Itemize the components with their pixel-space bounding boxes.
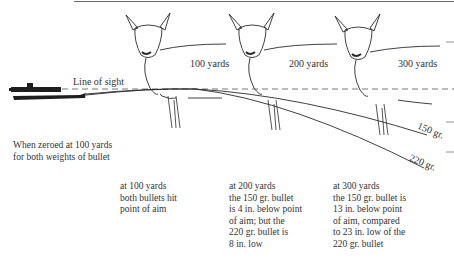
caption-line: the 150 gr. bullet is [333,193,406,205]
caption-line: of aim, compared [333,216,406,228]
distance-label-300: 300 yards [398,58,437,70]
zero-note-line: When zeroed at 100 yards [13,140,112,152]
caption-100-yards: at 100 yards both bullets hit point of a… [120,181,177,216]
caption-line: 13 in. below point [333,204,406,216]
distance-label-200: 200 yards [289,58,328,70]
line-of-sight-label: Line of sight [73,76,124,88]
caption-line: at 100 yards [120,181,177,193]
caption-line: both bullets hit [120,193,177,205]
zero-note-line: for both weights of bullet [13,152,112,164]
caption-line: is 4 in. below point [229,204,302,216]
caption-line: 220 gr. bullet [333,239,406,251]
edge-ticks [446,42,454,152]
caption-300-yards: at 300 yards the 150 gr. bullet is 13 in… [333,181,406,250]
caption-200-yards: at 200 yards the 150 gr. bullet is 4 in.… [229,181,302,250]
caption-line: to 23 in. low of the [333,227,406,239]
caption-line: 8 in. low [229,239,302,251]
caption-line: 220 gr. bullet is [229,227,302,239]
deer-icon [335,14,440,135]
trajectory-150gr [86,89,427,135]
trajectory-220gr [86,89,424,168]
caption-line: of aim; but the [229,216,302,228]
deer-icon [229,13,337,130]
distance-label-100: 100 yards [190,58,229,70]
caption-line: at 300 yards [333,181,406,193]
caption-line: at 200 yards [229,181,302,193]
caption-line: the 150 gr. bullet [229,193,302,205]
caption-line: point of aim [120,204,177,216]
deer-icon [126,13,226,128]
zero-note: When zeroed at 100 yards for both weight… [13,140,112,163]
